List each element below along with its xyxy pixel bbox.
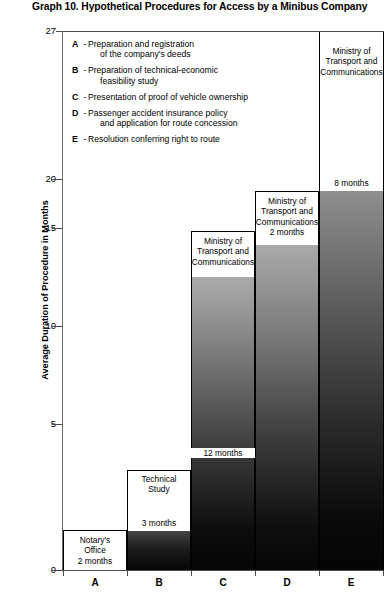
legend-item-E: E - Resolution conferring right to route bbox=[72, 134, 293, 144]
legend-text-D-line1: Passenger accident insurance policy bbox=[88, 108, 228, 118]
bar-B-agency-line1: Technical bbox=[142, 474, 177, 484]
legend-text-D: Passenger accident insurance policy and … bbox=[88, 108, 293, 128]
legend-key-E: E bbox=[72, 134, 82, 144]
bar-C-duration-caption: 12 months bbox=[191, 448, 255, 458]
bar-D-agency-line2: Transport and bbox=[261, 206, 313, 216]
x-axis-label-B: B bbox=[127, 577, 191, 588]
bar-C-fill bbox=[192, 232, 254, 570]
legend-text-B-line1: Preparation of technical-economic bbox=[88, 65, 218, 75]
bar-E-agency-line2: Transport and bbox=[326, 56, 378, 66]
x-axis-label-C: C bbox=[191, 577, 255, 588]
legend-text-C-line1: Presentation of proof of vehicle ownersh… bbox=[88, 92, 248, 102]
bar-E-months: 8 months bbox=[334, 178, 368, 188]
x-axis-label-A: A bbox=[63, 577, 127, 588]
legend-text-A: Preparation and registration of the comp… bbox=[88, 39, 293, 59]
legend-text-A-line2: of the company's deeds bbox=[88, 49, 293, 59]
bar-C[interactable] bbox=[191, 231, 255, 570]
bar-E-agency-line1: Ministry of bbox=[332, 46, 370, 56]
bar-E-agency-line3: Communications bbox=[320, 67, 382, 77]
legend-item-D: D - Passenger accident insurance policy … bbox=[72, 108, 293, 128]
legend-key-C: C bbox=[72, 92, 82, 102]
chart-title: Graph 10. Hypothetical Procedures for Ac… bbox=[32, 1, 384, 12]
chart-figure: Graph 10. Hypothetical Procedures for Ac… bbox=[0, 0, 387, 597]
legend-item-B: B - Preparation of technical-economic fe… bbox=[72, 65, 293, 85]
legend-text-C: Presentation of proof of vehicle ownersh… bbox=[88, 92, 293, 102]
bar-D-agency-line3: Communications bbox=[256, 217, 318, 227]
bar-D-months: 2 months bbox=[270, 227, 304, 237]
legend-text-D-line2: and application for route concession bbox=[88, 118, 293, 128]
bar-A-label: Notary's Office 2 months bbox=[63, 530, 127, 570]
legend-item-C: C - Presentation of proof of vehicle own… bbox=[72, 92, 293, 102]
x-tick-1 bbox=[127, 570, 128, 576]
bar-A-months: 2 months bbox=[78, 556, 112, 566]
x-axis-line bbox=[62, 570, 384, 571]
bar-C-agency-line1: Ministry of bbox=[204, 236, 242, 246]
bar-B-months: 3 months bbox=[142, 518, 176, 528]
legend-text-E-line1: Resolution conferring right to route bbox=[88, 134, 220, 144]
legend-key-B: B bbox=[72, 65, 82, 75]
bar-D[interactable] bbox=[255, 191, 319, 570]
legend-text-B-line2: feasibility study bbox=[88, 76, 293, 86]
legend-text-A-line1: Preparation and registration bbox=[88, 39, 194, 49]
x-axis-label-E: E bbox=[319, 577, 383, 588]
bar-B-agency-line2: Study bbox=[148, 484, 169, 494]
y-axis-title: Average Duration of Procedure in Months bbox=[40, 165, 50, 415]
legend-key-A: A bbox=[72, 39, 82, 49]
x-tick-2 bbox=[191, 570, 192, 576]
legend: A - Preparation and registration of the … bbox=[66, 33, 295, 149]
x-axis-label-D: D bbox=[255, 577, 319, 588]
bar-E-label: Ministry of Transport and Communications… bbox=[319, 32, 384, 191]
bar-D-label: Ministry of Transport and Communications… bbox=[255, 191, 319, 245]
y-tick-label-27: 27 bbox=[30, 25, 56, 36]
x-tick-0 bbox=[63, 570, 64, 576]
bar-D-fill bbox=[256, 192, 318, 570]
legend-text-B: Preparation of technical-economic feasib… bbox=[88, 65, 293, 85]
x-tick-5 bbox=[383, 570, 384, 576]
bar-A-agency-line1: Notary's bbox=[80, 535, 110, 545]
legend-key-D: D bbox=[72, 108, 82, 118]
x-tick-3 bbox=[255, 570, 256, 576]
x-tick-4 bbox=[319, 570, 320, 576]
legend-text-E: Resolution conferring right to route bbox=[88, 134, 293, 144]
bar-C-agency-line2: Transport and bbox=[197, 246, 249, 256]
bar-C-label: Ministry of Transport and Communications bbox=[191, 231, 255, 277]
bar-A-agency-line2: Office bbox=[84, 545, 106, 555]
bar-D-agency-line1: Ministry of bbox=[268, 196, 306, 206]
bar-B-label: Technical Study 3 months bbox=[127, 470, 191, 531]
bar-C-agency-line3: Communications bbox=[192, 257, 254, 267]
legend-item-A: A - Preparation and registration of the … bbox=[72, 39, 293, 59]
